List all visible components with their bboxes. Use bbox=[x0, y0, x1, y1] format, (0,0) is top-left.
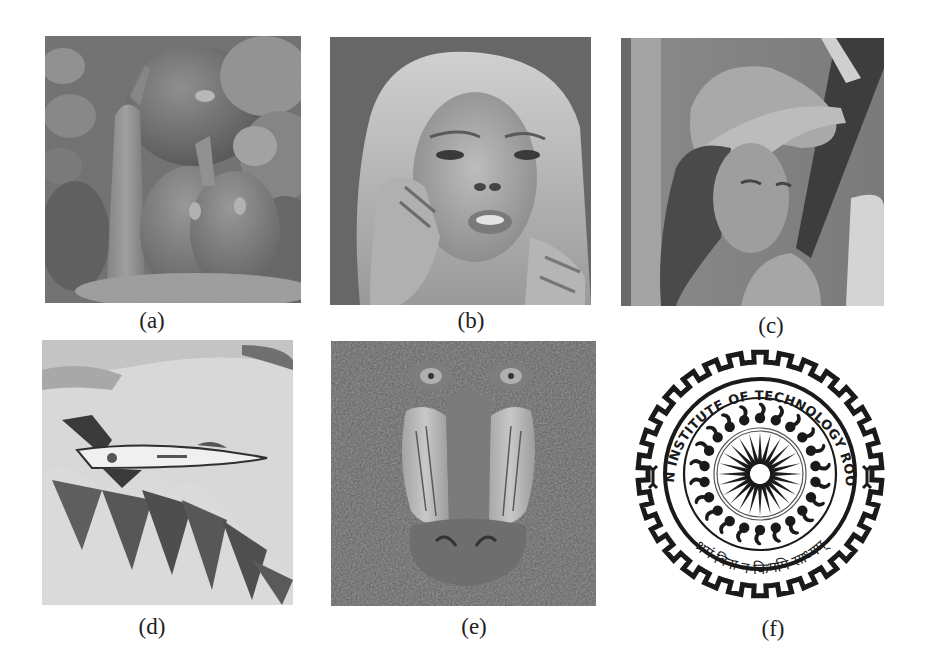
portrait-image bbox=[330, 37, 591, 305]
peppers-image bbox=[45, 36, 301, 303]
caption-f: (f) bbox=[733, 616, 813, 642]
caption-d: (d) bbox=[112, 614, 192, 640]
logo-motto: श्रमं विना न किमपि साध्यम् bbox=[691, 535, 831, 578]
svg-text:श्रमं विना न किमपि साध्यम्: श्रमं विना न किमपि साध्यम् bbox=[691, 535, 831, 578]
caption-c: (c) bbox=[731, 313, 811, 339]
lena-image bbox=[621, 38, 884, 306]
caption-b: (b) bbox=[431, 308, 511, 334]
caption-a: (a) bbox=[112, 308, 192, 334]
iit-roorkee-logo: INDIAN INSTITUTE OF TECHNOLOGY ROORKEE श… bbox=[633, 348, 887, 600]
jet-image bbox=[42, 340, 293, 605]
baboon-image bbox=[331, 341, 596, 606]
caption-e: (e) bbox=[434, 614, 514, 640]
